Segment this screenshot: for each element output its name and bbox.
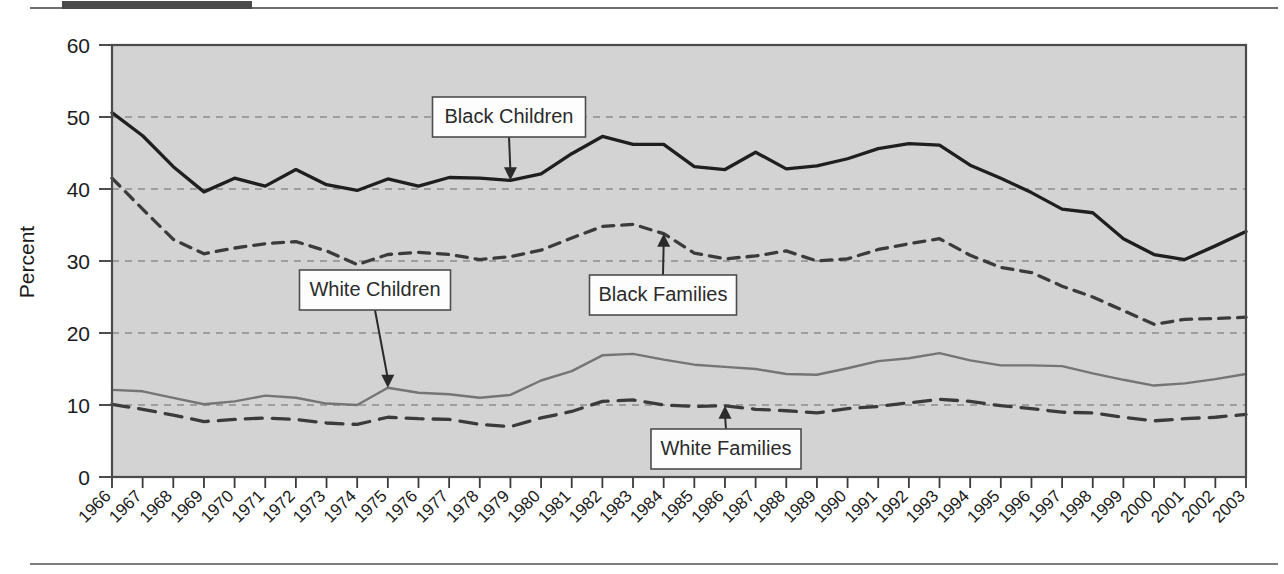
- svg-text:30: 30: [67, 250, 90, 273]
- svg-text:2003: 2003: [1209, 486, 1249, 526]
- svg-text:2001: 2001: [1147, 486, 1187, 526]
- svg-text:1972: 1972: [259, 486, 299, 526]
- y-axis-title: Percent: [15, 226, 38, 299]
- chart-canvas: 0102030405060 19661967196819691970197119…: [0, 0, 1284, 574]
- svg-text:1986: 1986: [688, 486, 728, 526]
- svg-text:1976: 1976: [381, 486, 421, 526]
- svg-text:1994: 1994: [933, 486, 973, 526]
- svg-text:40: 40: [67, 178, 90, 201]
- svg-text:1989: 1989: [780, 486, 820, 526]
- bottom-divider-rule: [30, 563, 1278, 565]
- callout-label: White Families: [660, 437, 791, 459]
- callout-leader-line: [663, 243, 664, 275]
- svg-text:1979: 1979: [473, 486, 513, 526]
- svg-text:1997: 1997: [1025, 486, 1065, 526]
- svg-text:20: 20: [67, 322, 90, 345]
- svg-text:0: 0: [78, 466, 90, 489]
- svg-text:50: 50: [67, 106, 90, 129]
- svg-text:1967: 1967: [105, 486, 145, 526]
- svg-text:1983: 1983: [596, 486, 636, 526]
- svg-text:60: 60: [67, 34, 90, 57]
- y-axis-ticks: 0102030405060: [67, 34, 112, 489]
- svg-text:1998: 1998: [1055, 486, 1095, 526]
- svg-text:1975: 1975: [350, 486, 390, 526]
- top-dark-tab-bar: [62, 1, 252, 9]
- svg-text:1968: 1968: [136, 486, 176, 526]
- x-axis-ticks: 1966196719681969197019711972197319741975…: [75, 477, 1249, 527]
- svg-text:2002: 2002: [1178, 486, 1218, 526]
- svg-text:1988: 1988: [749, 486, 789, 526]
- svg-text:1993: 1993: [902, 486, 942, 526]
- svg-text:1977: 1977: [412, 486, 452, 526]
- callout-label: Black Families: [599, 283, 728, 305]
- svg-text:1985: 1985: [657, 486, 697, 526]
- svg-text:10: 10: [67, 394, 90, 417]
- svg-text:1970: 1970: [197, 486, 237, 526]
- callout-label: White Children: [309, 278, 440, 300]
- callout-label: Black Children: [445, 105, 574, 127]
- svg-text:1987: 1987: [718, 486, 758, 526]
- svg-text:1982: 1982: [565, 486, 605, 526]
- svg-text:1971: 1971: [228, 486, 268, 526]
- svg-text:1973: 1973: [289, 486, 329, 526]
- svg-text:1996: 1996: [994, 486, 1034, 526]
- poverty-rate-line-chart-figure: 0102030405060 19661967196819691970197119…: [0, 0, 1284, 574]
- svg-text:1984: 1984: [626, 486, 666, 526]
- svg-text:1991: 1991: [841, 486, 881, 526]
- svg-text:1999: 1999: [1086, 486, 1126, 526]
- svg-text:1980: 1980: [504, 486, 544, 526]
- svg-text:1974: 1974: [320, 486, 360, 526]
- svg-text:1992: 1992: [872, 486, 912, 526]
- svg-text:1969: 1969: [167, 486, 207, 526]
- svg-text:1981: 1981: [534, 486, 574, 526]
- svg-text:1995: 1995: [963, 486, 1003, 526]
- svg-text:1966: 1966: [75, 486, 115, 526]
- svg-text:2000: 2000: [1117, 486, 1157, 526]
- svg-text:1990: 1990: [810, 486, 850, 526]
- svg-text:1978: 1978: [442, 486, 482, 526]
